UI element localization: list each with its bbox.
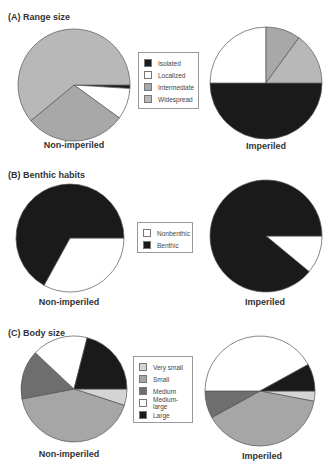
legend-label: Large (153, 412, 170, 419)
legend-swatch (139, 375, 147, 383)
label-body-imperiled: Imperiled (202, 451, 322, 461)
legend-label: Medium-large (153, 396, 187, 410)
legend-item: Small (139, 373, 187, 385)
legend-swatch (139, 399, 147, 407)
legend-swatch (139, 387, 147, 395)
legend-label: Very small (153, 364, 183, 371)
legend-label: Medium (153, 388, 176, 395)
legend-swatch (139, 411, 147, 419)
legend-item: Medium-large (139, 397, 187, 409)
legend-item: Large (139, 409, 187, 421)
legend-label: Small (153, 376, 169, 383)
legend-swatch (139, 363, 147, 371)
legend-body-size: Very smallSmallMediumMedium-largeLarge (133, 356, 193, 423)
label-body-non-imperiled: Non-imperiled (9, 449, 129, 459)
legend-item: Very small (139, 361, 187, 373)
